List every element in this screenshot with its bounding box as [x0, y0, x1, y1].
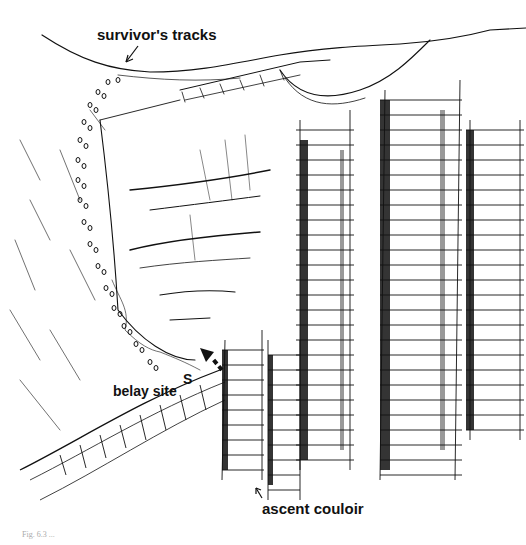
belay-site-marker: S — [183, 371, 192, 387]
figure-caption: Fig. 6.3 ... — [22, 530, 55, 539]
ascent-couloir-label: ascent couloir — [262, 500, 364, 517]
mountain-sketch — [0, 0, 526, 545]
belay-site-label: belay site — [113, 383, 177, 399]
survivors-tracks-label: survivor's tracks — [97, 26, 216, 43]
